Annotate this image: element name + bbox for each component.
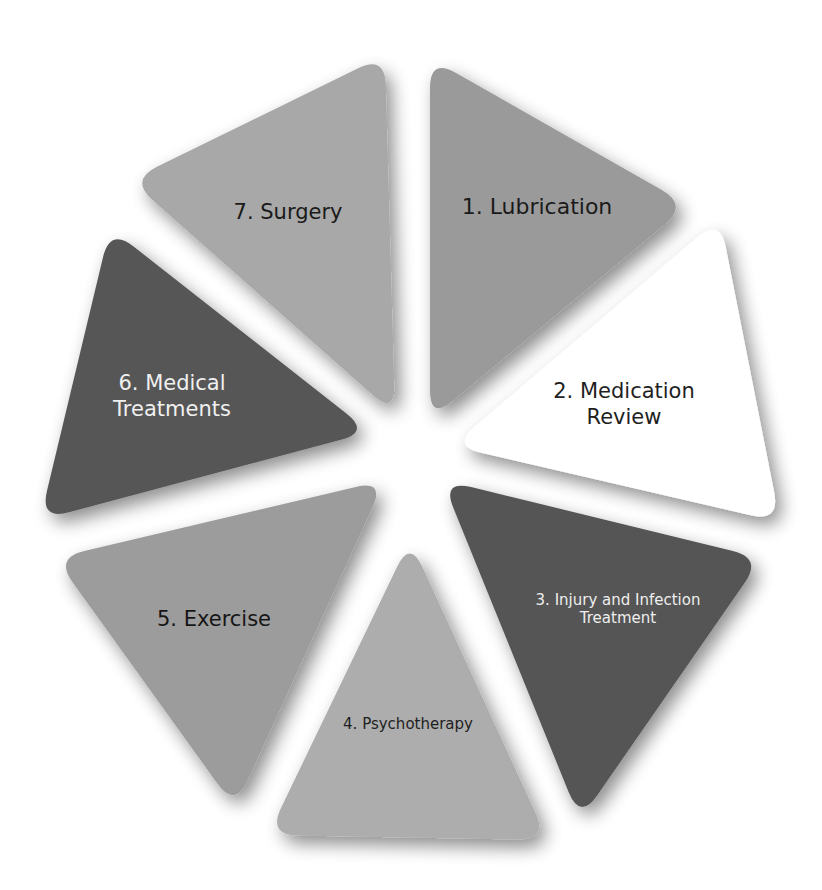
segment-7-label: 7. Surgery: [234, 200, 343, 226]
segment-6-label: 6. MedicalTreatments: [113, 371, 231, 422]
segment-4-label: 4. Psychotherapy: [343, 715, 473, 733]
segment-1-label: 1. Lubrication: [462, 194, 613, 221]
segment-3-label: 3. Injury and InfectionTreatment: [536, 591, 701, 628]
segment-2-label: 2. MedicationReview: [553, 379, 695, 430]
segment-label-line2: Review: [553, 405, 695, 431]
segment-label-line1: 1. Lubrication: [462, 194, 613, 221]
treatment-wheel-diagram: [0, 0, 822, 890]
segment-label-line1: 3. Injury and Infection: [536, 591, 701, 609]
segment-label-line1: 4. Psychotherapy: [343, 715, 473, 733]
segment-label-line2: Treatments: [113, 397, 231, 423]
segment-label-line1: 5. Exercise: [157, 607, 271, 633]
segment-5-label: 5. Exercise: [157, 607, 271, 633]
segment-label-line1: 2. Medication: [553, 379, 695, 405]
segment-label-line1: 6. Medical: [113, 371, 231, 397]
segment-label-line1: 7. Surgery: [234, 200, 343, 226]
segment-label-line2: Treatment: [536, 609, 701, 627]
